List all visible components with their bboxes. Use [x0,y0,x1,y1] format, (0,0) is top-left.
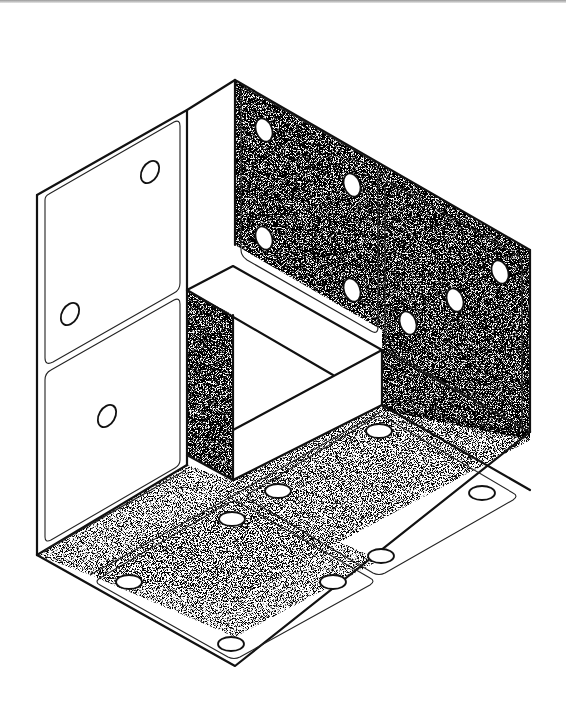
left-wall-upper-panel [45,121,180,363]
pip-icon [469,486,495,500]
stipple-shading [37,80,530,637]
isometric-dice-box-illustration [0,0,566,715]
pip-icon [94,402,120,431]
pip-icon [366,424,392,438]
pip-icon [368,549,394,563]
pip-icon [219,512,245,526]
pip-icon [57,300,83,329]
pip-icon [218,637,244,651]
pip-icon [265,484,291,498]
pip-icon [320,575,346,589]
pip-icon [116,575,142,589]
pip-icon [137,158,163,187]
